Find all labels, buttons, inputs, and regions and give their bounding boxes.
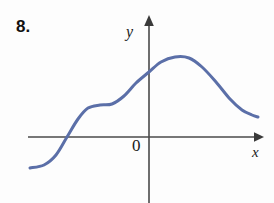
function-curve: [30, 57, 258, 168]
y-axis-arrow-icon: [144, 15, 154, 26]
x-axis-label: x: [252, 145, 259, 160]
figure-panel: 8. y x 0: [0, 0, 274, 203]
origin-label: 0: [132, 137, 141, 154]
graph-figure: [0, 0, 274, 203]
x-axis-arrow-icon: [254, 132, 264, 142]
y-axis-label: y: [126, 24, 133, 40]
